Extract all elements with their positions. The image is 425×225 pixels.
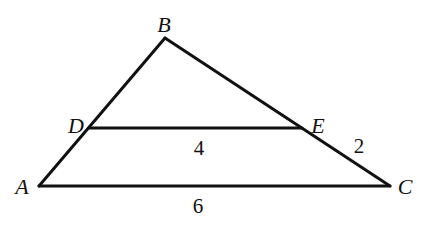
vertex-label-a: A [13,174,29,199]
triangle-diagram: B D E A C 4 2 6 [0,0,425,225]
vertex-label-d: D [67,113,84,138]
length-label-ac: 6 [193,194,204,218]
length-label-de: 4 [194,136,205,160]
vertex-label-c: C [398,174,413,199]
length-label-ec: 2 [354,134,365,158]
vertex-label-e: E [310,113,325,138]
vertex-label-b: B [157,12,170,37]
segment-bc [165,38,390,186]
segment-ab [39,38,165,186]
